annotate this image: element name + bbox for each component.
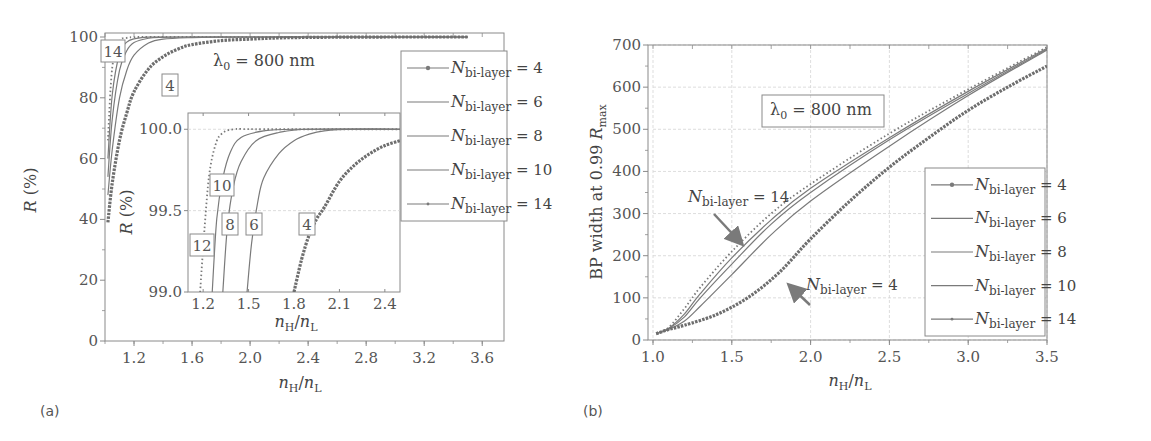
inset-x-tick-label: 1.8 [282, 295, 306, 313]
figure-canvas: 1.21.62.02.42.83.23.6020406080100nH/nLR … [0, 0, 1151, 441]
legend-marker [950, 183, 954, 187]
panel-label-b: (b) [583, 403, 603, 419]
wavelength-annotation: λ0 = 800 nm [213, 51, 315, 73]
x-tick-label: 1.2 [122, 349, 146, 367]
arrow-label: Nbi-layer = 14 [687, 187, 789, 209]
arrow-label: Nbi-layer = 4 [805, 275, 898, 297]
inset-x-tick-label: 2.1 [327, 295, 351, 313]
x-tick-label: 2.5 [877, 348, 901, 366]
x-axis-title: nH/nL [279, 373, 323, 395]
x-tick-label: 1.5 [720, 348, 744, 366]
x-tick-label: 2.4 [296, 349, 320, 367]
y-axis-title: R (%) [21, 168, 40, 214]
curve-label: 14 [103, 43, 122, 61]
y-tick-label: 20 [79, 271, 98, 289]
chart-b: 1.01.52.02.53.03.50100200300400500600700… [587, 36, 1076, 393]
inset-x-tick-label: 1.5 [237, 295, 261, 313]
y-tick-label: 80 [79, 89, 98, 107]
x-tick-label: 3.5 [1035, 348, 1059, 366]
legend-marker [427, 203, 430, 206]
inset-x-tick-label: 1.2 [191, 295, 215, 313]
x-tick-label: 3.0 [956, 348, 980, 366]
inset-y-tick-label: 99.0 [149, 283, 182, 301]
arrow-icon [714, 214, 741, 243]
arrow-annotation: Nbi-layer = 4 [790, 275, 898, 305]
x-tick-label: 1.0 [641, 348, 665, 366]
x-tick-label: 2.0 [799, 348, 823, 366]
curve-label: 8 [225, 216, 235, 234]
curve-label: 4 [165, 77, 175, 95]
chart-a: 1.21.62.02.42.83.23.6020406080100nH/nLR … [21, 28, 552, 395]
curve-label: 6 [249, 216, 259, 234]
y-tick-label: 400 [612, 162, 641, 180]
inset-y-tick-label: 99.5 [149, 202, 182, 220]
legend-marker [426, 66, 430, 70]
y-tick-label: 100 [612, 289, 641, 307]
x-tick-label: 1.6 [180, 349, 204, 367]
x-axis-title: nH/nL [829, 371, 873, 393]
curve-label: 4 [302, 216, 312, 234]
x-tick-label: 3.2 [412, 349, 436, 367]
y-axis-title: BP width at 0.99 Rmax [587, 103, 609, 279]
inset-chart: 1.21.51.82.12.499.099.5100.0nH/nLR (%)12… [117, 113, 400, 334]
x-tick-label: 3.6 [470, 349, 494, 367]
y-tick-label: 60 [79, 150, 98, 168]
x-tick-label: 2.8 [354, 349, 378, 367]
inset-frame [188, 113, 400, 292]
y-tick-label: 300 [612, 205, 641, 223]
y-tick-label: 200 [612, 247, 641, 265]
y-tick-label: 40 [79, 210, 98, 228]
curve-label: 12 [192, 237, 211, 255]
y-tick-label: 700 [612, 36, 641, 54]
y-tick-label: 0 [631, 331, 641, 349]
wavelength-annotation: λ0 = 800 nm [770, 100, 872, 122]
x-tick-label: 2.0 [238, 349, 262, 367]
inset-x-tick-label: 2.4 [373, 295, 397, 313]
y-tick-label: 500 [612, 120, 641, 138]
arrow-annotation: Nbi-layer = 14 [687, 187, 789, 243]
y-tick-label: 100 [69, 28, 98, 46]
curve-label: 10 [212, 177, 231, 195]
inset-y-tick-label: 100.0 [139, 120, 182, 138]
panel-label-a: (a) [40, 403, 60, 419]
y-tick-label: 600 [612, 78, 641, 96]
x-axis-title: nH/nL [275, 312, 319, 334]
inset-y-axis-title: R (%) [117, 190, 136, 236]
y-tick-label: 0 [88, 332, 98, 350]
legend-marker [951, 318, 954, 321]
